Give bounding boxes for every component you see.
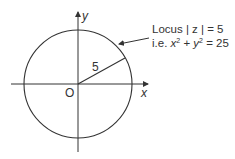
- locus-diagram: y x O 5 Locus | z | = 5 i.e. x2 + y2 = 2…: [0, 0, 235, 159]
- radius-line: [78, 58, 125, 84]
- x-axis-label: x: [140, 86, 148, 100]
- annotation-line2: i.e. x2 + y2 = 25: [152, 37, 229, 49]
- annotation-line1: Locus | z | = 5: [152, 23, 224, 35]
- y-axis-label: y: [81, 9, 89, 23]
- radius-label: 5: [92, 60, 99, 74]
- origin-label: O: [65, 86, 74, 100]
- annotation-arrow: [119, 38, 149, 44]
